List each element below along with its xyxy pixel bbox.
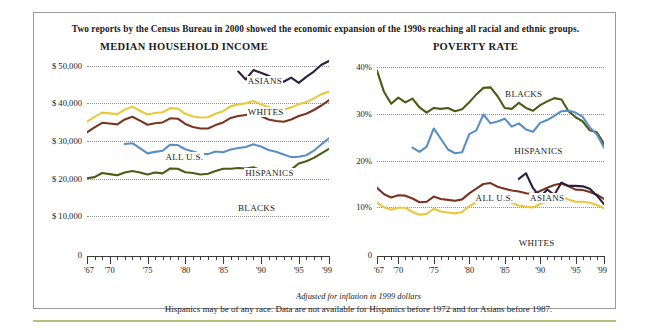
x-tick-major [148,256,149,264]
series-label-blacks: BLACKS [237,203,276,213]
income-chart-title: MEDIAN HOUSEHOLD INCOME [34,41,334,52]
x-tick-minor [491,256,492,260]
x-tick-minor [554,256,555,260]
y-tick-label: $ 40,000 [52,98,82,108]
x-tick-minor [178,256,179,260]
x-tick-minor [200,256,201,260]
x-tick-minor [208,256,209,260]
x-tick-major [434,256,435,264]
x-tick-label: '70 [393,266,403,275]
poverty-plot-area: 10%20%30%40%BLACKSHISPANICSALL U.S.ASIAN… [377,58,604,254]
series-label-all-u-s: ALL U.S. [164,152,204,162]
x-tick-minor [276,256,277,260]
x-tick-major [223,256,224,264]
x-tick-label: '80 [464,266,474,275]
x-tick-label: '90 [256,266,266,275]
x-tick-minor [321,256,322,260]
x-tick-minor [246,256,247,260]
x-tick-minor [238,256,239,260]
x-tick-label: '75 [143,266,153,275]
x-tick-minor [231,256,232,260]
x-tick-minor [448,256,449,260]
x-tick-minor [140,256,141,260]
poverty-ytick-zero: 0 [368,250,372,260]
poverty-chart-title: POVERTY RATE [334,41,617,52]
x-tick-minor [384,256,385,260]
x-tick-minor [455,256,456,260]
x-tick-minor [569,256,570,260]
y-tick-label: $ 10,000 [52,211,82,221]
x-tick-minor [170,256,171,260]
y-tick-label: 20% [356,156,372,166]
x-tick-major [329,256,330,264]
x-tick-label: '70 [105,266,115,275]
income-chart-panel: $ 10,000$ 20,000$ 30,000$ 40,000$ 50,000… [39,56,335,288]
x-tick-label: '67 [84,266,94,275]
poverty-chart-panel: 10%20%30%40%BLACKSHISPANICSALL U.S.ASIAN… [335,56,612,288]
series-label-whites: WHITES [247,107,285,117]
chart-frame: Two reports by the Census Bureau in 2000… [33,12,616,309]
x-tick-minor [95,256,96,260]
x-tick-minor [412,256,413,260]
x-tick-label: '95 [571,266,581,275]
bottom-rule [33,320,616,322]
series-line-hispanics [125,138,329,157]
x-tick-major [398,256,399,264]
x-tick-major [604,256,605,264]
x-tick-label: '67 [374,266,384,275]
x-tick-minor [284,256,285,260]
x-tick-minor [314,256,315,260]
y-tick-label: 30% [356,109,372,119]
x-tick-minor [561,256,562,260]
x-tick-label: '95 [294,266,304,275]
x-tick-minor [155,256,156,260]
series-line-blacks [377,71,604,144]
series-line-whites [87,92,329,122]
x-tick-major [469,256,470,264]
x-tick-minor [590,256,591,260]
x-tick-minor [519,256,520,260]
x-tick-label: '75 [429,266,439,275]
series-label-hispanics: HISPANICS [513,146,563,156]
x-tick-minor [405,256,406,260]
series-label-whites: WHITES [518,238,556,248]
x-tick-minor [512,256,513,260]
y-tick-label: $ 50,000 [52,61,82,71]
series-label-asians: ASIANS [529,193,565,203]
x-tick-minor [476,256,477,260]
y-tick-label: $ 30,000 [52,136,82,146]
x-tick-minor [253,256,254,260]
x-tick-major [299,256,300,264]
footnote: Hispanics may be of any race. Data are n… [67,304,649,314]
x-tick-major [87,256,88,264]
x-tick-minor [583,256,584,260]
x-tick-minor [163,256,164,260]
inflation-note: Adjusted for inflation in 1999 dollars [67,292,649,301]
poverty-x-axis: 0 '67'70'75'80'85'90'95'99 [377,256,604,286]
x-tick-minor [193,256,194,260]
x-tick-minor [526,256,527,260]
y-tick-label: 40% [356,62,372,72]
x-tick-minor [306,256,307,260]
headline-text: Two reports by the Census Bureau in 2000… [34,24,617,34]
income-x-axis: 0 '67'70'75'80'85'90'95'99 [87,256,329,286]
x-tick-minor [102,256,103,260]
x-tick-label: '99 [597,266,607,275]
x-tick-minor [498,256,499,260]
series-label-blacks: BLACKS [504,89,543,99]
x-tick-minor [132,256,133,260]
x-tick-major [185,256,186,264]
x-tick-major [540,256,541,264]
y-tick-label: 10% [356,202,372,212]
x-tick-minor [269,256,270,260]
x-tick-minor [547,256,548,260]
x-tick-minor [391,256,392,260]
x-tick-minor [420,256,421,260]
x-tick-major [576,256,577,264]
x-tick-label: '99 [322,266,332,275]
series-label-all-u-s: ALL U.S. [475,193,515,203]
x-tick-minor [597,256,598,260]
x-tick-minor [216,256,217,260]
x-tick-major [261,256,262,264]
x-tick-minor [441,256,442,260]
